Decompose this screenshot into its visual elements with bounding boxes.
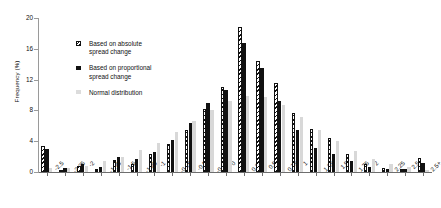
bar-absolute (113, 160, 116, 172)
y-tick-label: 20 (26, 15, 33, 21)
bar-absolute (292, 113, 295, 172)
bar-group (328, 18, 339, 172)
bar-normal (228, 101, 231, 172)
bar-normal (139, 150, 142, 172)
y-tick-label: 0 (29, 169, 33, 175)
bar-proportional (403, 169, 406, 172)
x-tick (369, 172, 370, 176)
bar-normal (121, 157, 124, 172)
x-tick (83, 172, 84, 176)
bar-absolute (221, 87, 224, 172)
legend-label: Normal distribution (89, 89, 142, 96)
bar-absolute (256, 61, 259, 172)
bar-group (167, 18, 178, 172)
bar-normal (264, 97, 267, 172)
bar-group (292, 18, 303, 172)
bar-absolute (418, 158, 421, 172)
x-tick (154, 172, 155, 176)
bar-group (59, 18, 70, 172)
bar-proportional (81, 164, 84, 172)
y-axis-title: Frequency (%) (13, 22, 20, 142)
y-tick-label: 16 (26, 46, 33, 52)
y-tick (34, 18, 39, 19)
bar-proportional (386, 169, 389, 172)
bar-group (41, 18, 52, 172)
bar-proportional (242, 43, 245, 172)
legend-label-line2: spread change (89, 48, 152, 56)
bar-absolute (167, 144, 170, 172)
legend-item: Based on absolutespread change (76, 40, 152, 57)
y-tick (34, 49, 39, 50)
legend-item: Normal distribution (76, 89, 152, 97)
filled-square-icon (76, 66, 81, 71)
bar-proportional (117, 157, 120, 172)
bar-normal (210, 110, 213, 172)
legend-label: Based on absolute (89, 40, 142, 47)
bar-normal (336, 141, 339, 172)
bar-normal (425, 170, 428, 172)
bar-group (382, 18, 393, 172)
bar-absolute (310, 129, 313, 172)
bar-proportional (153, 152, 156, 172)
y-tick-label: 8 (29, 107, 33, 113)
bar-absolute (41, 146, 44, 172)
bar-group (274, 18, 285, 172)
bar-proportional (368, 167, 371, 172)
x-tick (172, 172, 173, 176)
x-tick (405, 172, 406, 176)
chart-figure: Frequency (%) 048121620 -2.5-2.25-2-1.75… (0, 0, 441, 208)
bar-proportional (278, 101, 281, 172)
bar-normal (157, 143, 160, 172)
bar-group (256, 18, 267, 172)
x-tick (208, 172, 209, 176)
y-tick (34, 110, 39, 111)
bar-absolute (77, 166, 80, 172)
y-tick (34, 172, 39, 173)
bar-normal (300, 117, 303, 172)
bar-absolute (328, 138, 331, 172)
x-tick (298, 172, 299, 176)
x-tick (226, 172, 227, 176)
bar-proportional (421, 163, 424, 172)
bar-proportional (189, 123, 192, 172)
bar-group (185, 18, 196, 172)
bar-group (418, 18, 429, 172)
bar-normal (67, 168, 70, 172)
bar-proportional (350, 161, 353, 172)
bar-normal (389, 164, 392, 172)
chart-legend: Based on absolutespread changeBased on p… (76, 40, 152, 97)
bar-absolute (203, 109, 206, 172)
bar-absolute (149, 154, 152, 172)
bar-group (346, 18, 357, 172)
bar-proportional (224, 90, 227, 172)
x-tick (387, 172, 388, 176)
bar-absolute (346, 154, 349, 172)
bar-normal (85, 166, 88, 172)
bar-proportional (171, 140, 174, 172)
x-tick (190, 172, 191, 176)
x-tick (351, 172, 352, 176)
bar-normal (175, 132, 178, 172)
x-tick (101, 172, 102, 176)
x-tick (65, 172, 66, 176)
bar-absolute (364, 164, 367, 172)
bar-proportional (135, 159, 138, 172)
bar-absolute (382, 168, 385, 172)
legend-label: Based on proportional (89, 64, 152, 71)
bar-group (203, 18, 214, 172)
y-tick (34, 141, 39, 142)
legend-label-line2: spread change (89, 73, 152, 81)
bar-group (310, 18, 321, 172)
bar-absolute (131, 164, 134, 172)
bar-proportional (99, 167, 102, 172)
bar-proportional (314, 148, 317, 172)
bar-absolute (59, 170, 62, 172)
x-tick (316, 172, 317, 176)
x-tick (47, 172, 48, 176)
bar-absolute (400, 169, 403, 172)
x-axis-line (38, 172, 432, 173)
bar-normal (282, 105, 285, 172)
y-tick-label: 4 (29, 138, 33, 144)
legend-item: Based on proportionalspread change (76, 64, 152, 81)
bar-normal (372, 159, 375, 172)
